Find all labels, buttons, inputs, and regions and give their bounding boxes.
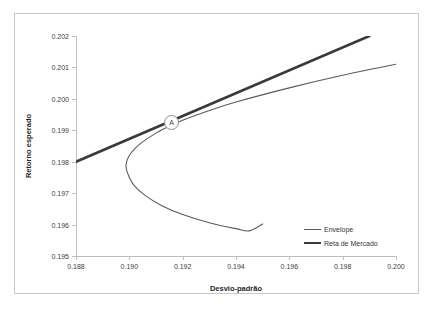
y-tick-label: 0.201: [51, 64, 69, 71]
plot-area: 0.1950.1960.1970.1980.1990.2000.2010.202…: [76, 36, 396, 256]
legend-swatch-reta-de-mercado: [304, 242, 321, 244]
x-tick-label: 0.190: [121, 263, 139, 270]
x-tick: [236, 256, 237, 260]
series-line-envelope: [126, 64, 396, 231]
x-tick: [183, 256, 184, 260]
y-tick-label: 0.198: [51, 158, 69, 165]
x-tick-label: 0.192: [174, 263, 192, 270]
x-tick: [129, 256, 130, 260]
legend-item-envelope: Envelope: [304, 222, 378, 236]
y-tick-label: 0.202: [51, 33, 69, 40]
legend-item-reta-de-mercado: Reta de Mercado: [304, 236, 378, 250]
legend-swatch-envelope: [304, 229, 321, 230]
chart-frame: 0.1950.1960.1970.1980.1990.2000.2010.202…: [14, 13, 419, 294]
y-tick-label: 0.195: [51, 253, 69, 260]
legend-label-envelope: Envelope: [324, 226, 353, 233]
x-tick: [396, 256, 397, 260]
point-marker-a: A: [164, 115, 179, 130]
series-line-reta-de-mercado: [76, 36, 369, 162]
legend-label-reta-de-mercado: Reta de Mercado: [324, 240, 378, 247]
x-axis-title: Desvio-padrão: [76, 284, 396, 293]
y-axis-title: Retorno esperado: [24, 114, 33, 178]
x-tick-label: 0.188: [67, 263, 85, 270]
y-tick-label: 0.200: [51, 95, 69, 102]
x-tick: [76, 256, 77, 260]
chart-legend: Envelope Reta de Mercado: [304, 222, 378, 250]
x-tick-label: 0.200: [387, 263, 405, 270]
x-tick-label: 0.194: [227, 263, 245, 270]
x-tick: [343, 256, 344, 260]
x-tick: [289, 256, 290, 260]
y-tick-label: 0.196: [51, 221, 69, 228]
x-tick-label: 0.196: [281, 263, 299, 270]
y-tick-label: 0.199: [51, 127, 69, 134]
point-marker-a-label: A: [169, 119, 174, 126]
x-tick-label: 0.198: [334, 263, 352, 270]
y-tick-label: 0.197: [51, 190, 69, 197]
